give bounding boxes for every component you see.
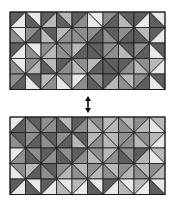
double-arrow-icon	[85, 96, 91, 113]
bottom-tile-grid	[10, 117, 165, 195]
top-tile-grid	[10, 12, 165, 90]
tiling-figure	[0, 0, 179, 207]
